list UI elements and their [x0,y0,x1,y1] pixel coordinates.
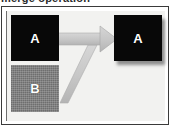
caption-strip: merge operation [0,0,172,5]
node-a-source: A [11,15,59,61]
figure-root: merge operation A B A [0,0,172,128]
node-b-source: B [11,65,59,112]
node-label: B [30,82,39,95]
node-a-result: A [114,15,162,61]
node-label: A [30,32,39,45]
node-label: A [133,32,142,45]
figure-caption: merge operation [1,0,90,4]
